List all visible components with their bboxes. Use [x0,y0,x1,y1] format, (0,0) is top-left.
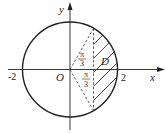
ray-lower [70,70,94,111]
svg-text:π: π [84,70,88,79]
origin-label: O [56,71,64,83]
y-axis-label: y [58,3,64,15]
y-axis-arrow-icon [68,2,73,10]
angle-label-upper: π 3 [78,50,86,68]
y-axis [68,2,73,130]
x-axis-label: x [149,71,155,83]
tick-label-2: 2 [121,72,126,83]
svg-text:3: 3 [80,59,84,68]
tick-label-neg-2: -2 [8,71,16,82]
svg-text:π: π [80,50,84,59]
angle-label-lower: π 3 [82,70,90,89]
region-label: D [100,55,109,67]
region-d-hatch [88,8,130,133]
x-axis-arrow-icon [157,67,165,72]
region-diagram: y x O -2 2 D π 3 π 3 [0,0,167,133]
svg-text:3: 3 [84,80,88,89]
